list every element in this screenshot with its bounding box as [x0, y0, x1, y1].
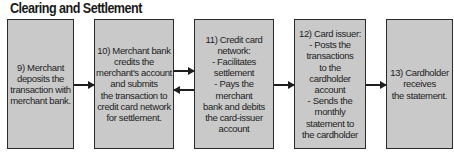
step-label: 10) Merchant bank credits the merchant's… [95, 45, 173, 123]
arrow-right-icon [366, 84, 386, 86]
step-label: 12) Card issuer: - Posts the transaction… [298, 28, 362, 140]
step-label: 11) Credit card network: - Facilitates s… [195, 34, 273, 135]
arrow-right-icon [174, 70, 194, 72]
arrow-left-icon [174, 89, 194, 91]
step-box-merchant-bank: 10) Merchant bank credits the merchant's… [94, 19, 174, 149]
step-label: 13) Cardholder receives the statement. [389, 67, 449, 101]
step-box-credit-card-network: 11) Credit card network: - Facilitates s… [194, 19, 274, 149]
step-box-merchant-deposit: 9) Merchant deposits the transaction wit… [7, 19, 74, 149]
step-box-card-issuer: 12) Card issuer: - Posts the transaction… [294, 19, 366, 149]
step-label: 9) Merchant deposits the transaction wit… [9, 62, 72, 107]
arrow-right-icon [74, 84, 94, 86]
step-box-cardholder: 13) Cardholder receives the statement. [386, 19, 453, 149]
arrow-right-icon [274, 84, 294, 86]
diagram-title: Clearing and Settlement [10, 0, 142, 17]
